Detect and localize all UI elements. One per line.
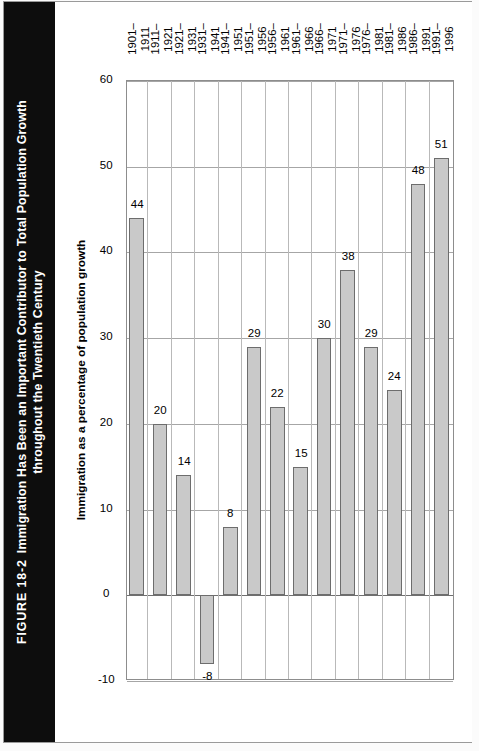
bar-value-label: 48: [408, 165, 428, 177]
bar-value-label: 8: [221, 508, 241, 520]
bar: [200, 595, 215, 664]
gridline-20: [127, 424, 453, 425]
gridline-50: [127, 167, 453, 168]
category-label-line: 1941–: [219, 2, 232, 76]
category-separator: [405, 81, 406, 679]
bar-value-label: 14: [174, 457, 194, 469]
category-separator: [147, 81, 148, 679]
category-label: 1981–1986: [383, 2, 409, 76]
bar: [176, 475, 191, 595]
figure-title-text-1: Immigration Has Been an Important Contri…: [14, 100, 28, 553]
bar-value-label: 29: [244, 328, 264, 340]
category-label-line: 1921–: [173, 2, 186, 76]
category-separator: [335, 81, 336, 679]
category-label-line: 1911–: [149, 2, 162, 76]
category-separator: [241, 81, 242, 679]
category-label: 1951–1956: [243, 2, 269, 76]
bar-value-label: 20: [150, 405, 170, 417]
figure-title-banner: FIGURE 18-2Immigration Has Been an Impor…: [4, 2, 55, 742]
category-label-line: 1976–: [360, 2, 373, 76]
bar: [247, 347, 262, 596]
bar: [293, 467, 308, 596]
value-tick-label-60: 60: [92, 74, 120, 86]
category-label: 1971–1976: [337, 2, 363, 76]
value-tick-label-40: 40: [92, 246, 120, 258]
category-separator: [382, 81, 383, 679]
gridline-30: [127, 338, 453, 339]
chart-region: 442014-88292215303829244851 -10010203040…: [56, 2, 472, 742]
bar: [270, 407, 285, 596]
figure-container: FIGURE 18-2Immigration Has Been an Impor…: [0, 0, 479, 751]
category-label: 1986–1991: [407, 2, 433, 76]
bar: [364, 347, 379, 596]
value-tick-label-10: 10: [92, 503, 120, 515]
bar-value-label: 15: [291, 448, 311, 460]
bar-value-label: 24: [385, 371, 405, 383]
category-separator: [194, 81, 195, 679]
category-separator: [218, 81, 219, 679]
category-label-line: 1931–: [196, 2, 209, 76]
bar-value-label: 38: [338, 251, 358, 263]
category-label-line: 1991–: [430, 2, 443, 76]
gridline-40: [127, 252, 453, 253]
value-axis-title: Immigration as a percentage of populatio…: [74, 80, 88, 680]
chart-canvas: 442014-88292215303829244851 -10010203040…: [56, 2, 472, 742]
category-label: 1911–1921: [149, 2, 175, 76]
figure-number-label: FIGURE 18-2: [14, 559, 28, 644]
figure-title-rotated-group: FIGURE 18-2Immigration Has Been an Impor…: [4, 2, 55, 742]
category-label-line: 1981–: [383, 2, 396, 76]
category-label-line: 1951–: [243, 2, 256, 76]
category-label-line: 1956–: [266, 2, 279, 76]
bar-value-label: 51: [432, 139, 452, 151]
value-tick-label-0: 0: [92, 589, 120, 601]
bar: [153, 424, 168, 595]
bar: [434, 158, 449, 595]
bar: [317, 338, 332, 595]
category-label: 1961–1966: [290, 2, 316, 76]
category-label-line: 1996: [443, 2, 456, 76]
value-tick-label--10: -10: [92, 674, 120, 686]
gridline--10: [127, 681, 453, 682]
value-tick-label-30: 30: [92, 331, 120, 343]
category-label-line: 1971–: [337, 2, 350, 76]
value-tick-label-50: 50: [92, 160, 120, 172]
bar: [387, 390, 402, 596]
bar: [340, 270, 355, 596]
category-label: 1956–1961: [266, 2, 292, 76]
category-label-line: 1901–: [126, 2, 139, 76]
category-label: 1921–1931: [173, 2, 199, 76]
bar-value-label: 30: [314, 319, 334, 331]
category-label-line: 1966–: [313, 2, 326, 76]
bar: [411, 184, 426, 595]
gridline-0: [127, 595, 453, 596]
category-separator: [288, 81, 289, 679]
category-label-line: 1986–: [407, 2, 420, 76]
category-separator: [358, 81, 359, 679]
category-label: 1901–1911: [126, 2, 152, 76]
bar-value-label: 44: [127, 199, 147, 211]
category-separator: [311, 81, 312, 679]
plot-area: 442014-88292215303829244851: [126, 80, 454, 680]
category-separator: [171, 81, 172, 679]
bar: [223, 527, 238, 596]
bar-value-label: 22: [268, 388, 288, 400]
bar-value-label: -8: [197, 671, 217, 683]
bar-value-label: 29: [361, 328, 381, 340]
value-tick-label-20: 20: [92, 417, 120, 429]
category-label: 1991–1996: [430, 2, 456, 76]
bar: [129, 218, 144, 595]
figure-title-line-2: throughout the Twentieth Century: [30, 270, 45, 474]
category-separator: [265, 81, 266, 679]
gridline-60: [127, 81, 453, 82]
category-label-line: 1961–: [290, 2, 303, 76]
category-separator: [429, 81, 430, 679]
category-label: 1941–1951: [219, 2, 245, 76]
figure-title-line-1: FIGURE 18-2Immigration Has Been an Impor…: [14, 100, 29, 644]
category-label: 1966–1971: [313, 2, 339, 76]
